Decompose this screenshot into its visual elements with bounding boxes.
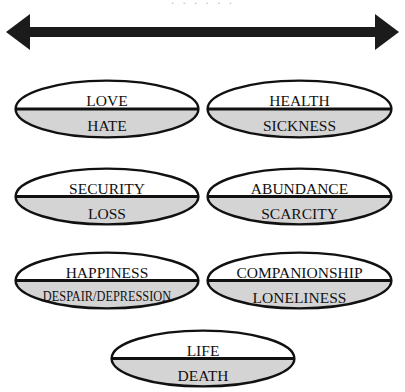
- oval-companionship-loneliness: COMPANIONSHIPLONELINESS: [206, 251, 393, 310]
- oval-positive-half: [14, 251, 200, 281]
- oval-health-sickness: HEALTHSICKNESS: [206, 79, 393, 139]
- oval-shape: [110, 329, 296, 388]
- oval-security-loss: SECURITYLOSS: [14, 167, 200, 226]
- oval-positive-half: [14, 167, 200, 197]
- oval-happiness-despair: HAPPINESSDESPAIR/DEPRESSION: [14, 251, 200, 310]
- oval-negative-half: [206, 281, 393, 311]
- oval-shape: [206, 167, 393, 226]
- oval-positive-half: [206, 251, 393, 281]
- oval-positive-half: [206, 167, 393, 197]
- double-headed-horizontal-arrow: [0, 6, 405, 62]
- oval-positive-half: [14, 79, 200, 109]
- oval-negative-half: [14, 197, 200, 227]
- oval-negative-half: [110, 359, 296, 389]
- oval-love-hate: LOVEHATE: [14, 79, 200, 139]
- oval-negative-half: [206, 197, 393, 227]
- oval-shape: [206, 251, 393, 310]
- oval-life-death: LIFEDEATH: [110, 329, 296, 388]
- oval-shape: [14, 251, 200, 310]
- oval-negative-half: [14, 109, 200, 139]
- oval-negative-half: [206, 109, 393, 139]
- double-headed-arrow-icon: [0, 6, 405, 62]
- oval-shape: [14, 79, 200, 139]
- oval-negative-half: [14, 281, 200, 311]
- oval-shape: [14, 167, 200, 226]
- polarity-ovals-figure: · · · · · · LOVEHATEHEALTHSICKNESSSECURI…: [0, 0, 405, 392]
- oval-abundance-scarcity: ABUNDANCESCARCITY: [206, 167, 393, 226]
- oval-shape: [206, 79, 393, 139]
- oval-positive-half: [206, 79, 393, 109]
- oval-positive-half: [110, 329, 296, 359]
